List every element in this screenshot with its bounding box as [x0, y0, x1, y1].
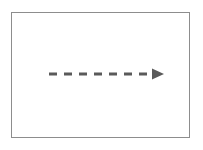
figure-canvas	[0, 0, 203, 150]
dashed-arrow-right-icon	[12, 13, 191, 139]
diagram-frame	[11, 12, 190, 138]
arrow-head	[152, 69, 164, 80]
